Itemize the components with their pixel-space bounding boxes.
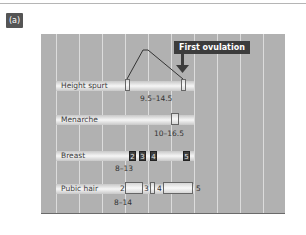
puberty-chart: Height spurt 9.5–14.5 Menarche 10–16.5 B…: [41, 34, 285, 214]
arrow-down-icon: [176, 65, 189, 73]
height-spurt-curve: [41, 34, 285, 213]
panel-label: (a): [6, 13, 23, 28]
arrow-shaft: [181, 54, 184, 66]
page-top-rule: [0, 3, 306, 4]
